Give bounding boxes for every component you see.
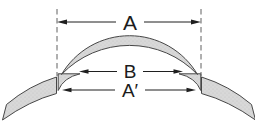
left-band-section bbox=[3, 77, 57, 120]
dimension-a-prime-arrow-right-icon bbox=[187, 88, 197, 93]
right-band-section bbox=[202, 77, 256, 120]
dimension-a-prime: A′ bbox=[62, 80, 196, 101]
dimension-a-prime-arrow-left-icon bbox=[62, 88, 72, 93]
dimension-a-prime-label: A′ bbox=[122, 80, 139, 101]
dimension-b-arrow-right-icon bbox=[174, 69, 184, 74]
left-seat-fillet bbox=[58, 74, 80, 91]
diagram-canvas: A B A′ bbox=[0, 0, 255, 133]
dimension-a-arrow-left-icon bbox=[57, 20, 67, 25]
dimension-b-arrow-left-icon bbox=[79, 69, 89, 74]
dimension-a: A bbox=[57, 11, 201, 34]
cross-section-diagram: A B A′ bbox=[0, 0, 255, 133]
right-seat-fillet bbox=[179, 74, 201, 91]
dimension-a-arrow-right-icon bbox=[191, 20, 201, 25]
dimension-a-label: A bbox=[123, 11, 137, 34]
